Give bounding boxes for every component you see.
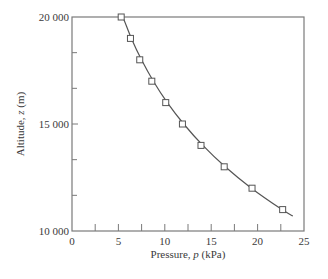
y-axis-title: Altitude, z (m) — [14, 91, 27, 156]
data-point-square — [249, 185, 255, 191]
data-point-square — [149, 78, 155, 84]
y-tick-label: 20 000 — [39, 11, 70, 23]
y-tick-label: 15 000 — [39, 118, 70, 130]
data-point-square — [163, 100, 169, 106]
data-point-square — [179, 121, 185, 127]
plot-border — [72, 17, 304, 231]
x-tick-label: 20 — [252, 235, 264, 247]
x-tick-label: 15 — [206, 235, 218, 247]
x-tick-label: 10 — [159, 235, 171, 247]
data-point-square — [198, 142, 204, 148]
data-markers — [118, 14, 285, 213]
data-point-square — [137, 57, 143, 63]
data-point-square — [118, 14, 124, 20]
x-axis-title: Pressure, p (kPa) — [151, 248, 226, 261]
x-tick-label: 5 — [116, 235, 122, 247]
y-tick-label: 10 000 — [39, 225, 70, 237]
plot-frame — [72, 17, 304, 231]
fit-line — [118, 11, 292, 216]
x-axis-ticks: 0510152025 — [69, 224, 310, 247]
pressure-altitude-chart: 0510152025 10 00015 00020 000 Pressure, … — [0, 0, 328, 279]
data-point-square — [280, 207, 286, 213]
fitted-curve — [118, 11, 292, 216]
x-tick-label: 25 — [299, 235, 311, 247]
data-point-square — [127, 35, 133, 41]
x-tick-label: 0 — [69, 235, 75, 247]
data-point-square — [221, 164, 227, 170]
